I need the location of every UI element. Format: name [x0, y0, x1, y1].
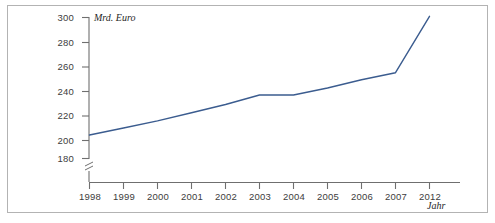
y-axis-break-icon: [85, 162, 93, 170]
y-tick-marks: [82, 18, 89, 159]
y-tick-label-300: 300: [44, 12, 74, 23]
y-tick-label-200: 200: [44, 135, 74, 146]
x-tick-marks: [90, 183, 430, 190]
chart-figure: 300 280 260 240 220 200 180 Mrd. Euro 19…: [0, 0, 495, 223]
y-tick-label-220: 220: [44, 110, 74, 121]
chart-frame: 300 280 260 240 220 200 180 Mrd. Euro 19…: [7, 5, 488, 213]
y-tick-label-260: 260: [44, 61, 74, 72]
x-axis-caption: Jahr: [427, 200, 445, 211]
y-tick-label-180: 180: [44, 153, 74, 164]
y-tick-label-240: 240: [44, 86, 74, 97]
y-axis-caption: Mrd. Euro: [94, 12, 135, 23]
line-chart-plot: [8, 6, 487, 212]
y-tick-label-280: 280: [44, 37, 74, 48]
data-series-line: [90, 16, 430, 135]
